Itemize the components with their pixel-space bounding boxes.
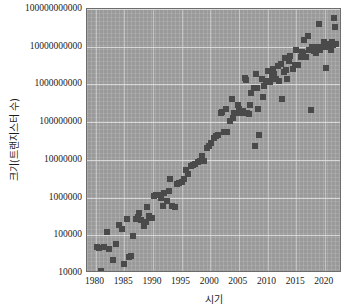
- data-point: [128, 253, 134, 259]
- data-point: [113, 241, 119, 247]
- data-point: [278, 61, 284, 67]
- data-point: [254, 85, 260, 91]
- data-point: [167, 176, 173, 182]
- data-point: [98, 268, 104, 272]
- data-point: [283, 67, 289, 73]
- data-point: [331, 15, 337, 21]
- data-point: [104, 229, 110, 235]
- data-point: [121, 261, 127, 267]
- data-point: [136, 210, 142, 216]
- x-axis-tick-label: 2020: [314, 276, 333, 286]
- data-point: [166, 188, 172, 194]
- y-axis-tick-label: 100000000000: [25, 3, 82, 13]
- data-point: [172, 204, 178, 210]
- data-point: [243, 77, 249, 83]
- data-point: [149, 215, 155, 221]
- x-axis-tick-label: 2015: [286, 276, 305, 286]
- x-axis-tick-labels: 198019851990199520002005201020152020: [86, 276, 341, 290]
- data-point: [260, 94, 266, 100]
- x-axis-tick-label: 2005: [228, 276, 247, 286]
- x-axis-tick-label: 1985: [114, 276, 133, 286]
- data-point: [308, 107, 314, 113]
- data-point: [305, 33, 311, 39]
- data-point: [284, 76, 290, 82]
- data-point: [119, 226, 125, 232]
- data-point: [160, 203, 166, 209]
- transistor-count-scatter-chart: 1000010000010000001000000010000000010000…: [0, 0, 347, 307]
- data-point: [300, 50, 306, 56]
- x-axis-tick-label: 1995: [171, 276, 190, 286]
- y-axis-tick-label: 100000000: [39, 116, 82, 126]
- data-point: [231, 110, 237, 116]
- y-axis-tick-label: 10000000000: [30, 41, 82, 51]
- data-point: [324, 44, 330, 50]
- y-axis-tick-label: 1000000000: [35, 78, 83, 88]
- data-point: [130, 233, 136, 239]
- data-point: [279, 96, 285, 102]
- data-point: [287, 53, 293, 59]
- data-point: [224, 129, 230, 135]
- data-point: [323, 65, 329, 71]
- y-axis-title: 크기(트랜지스터 수): [6, 65, 21, 215]
- x-axis-tick-label: 2000: [200, 276, 219, 286]
- data-point: [124, 216, 130, 222]
- data-point: [185, 171, 191, 177]
- data-point: [201, 158, 207, 164]
- x-axis-tick-label: 1990: [142, 276, 161, 286]
- data-point: [247, 102, 253, 108]
- data-point: [110, 257, 116, 263]
- y-axis-tick-label: 10000: [58, 267, 82, 277]
- data-point: [295, 62, 301, 68]
- x-axis-tick-label: 2010: [257, 276, 276, 286]
- plot-area: [86, 8, 341, 272]
- data-point: [316, 21, 322, 27]
- data-point: [106, 246, 112, 252]
- x-axis-title: 시기: [86, 291, 341, 306]
- data-point: [252, 143, 258, 149]
- data-point: [332, 24, 338, 30]
- y-axis-tick-label: 1000000: [49, 192, 82, 202]
- data-point: [276, 78, 282, 84]
- y-axis-tick-label: 10000000: [44, 154, 82, 164]
- data-point: [311, 48, 317, 54]
- data-point: [144, 204, 150, 210]
- data-point: [271, 71, 277, 77]
- data-point: [333, 41, 339, 47]
- data-point: [246, 111, 252, 117]
- data-point: [223, 106, 229, 112]
- data-point: [255, 106, 261, 112]
- x-axis-tick-label: 1980: [85, 276, 104, 286]
- data-point: [256, 132, 262, 138]
- scatter-points-layer: [87, 9, 340, 271]
- y-axis-tick-label: 100000: [54, 229, 83, 239]
